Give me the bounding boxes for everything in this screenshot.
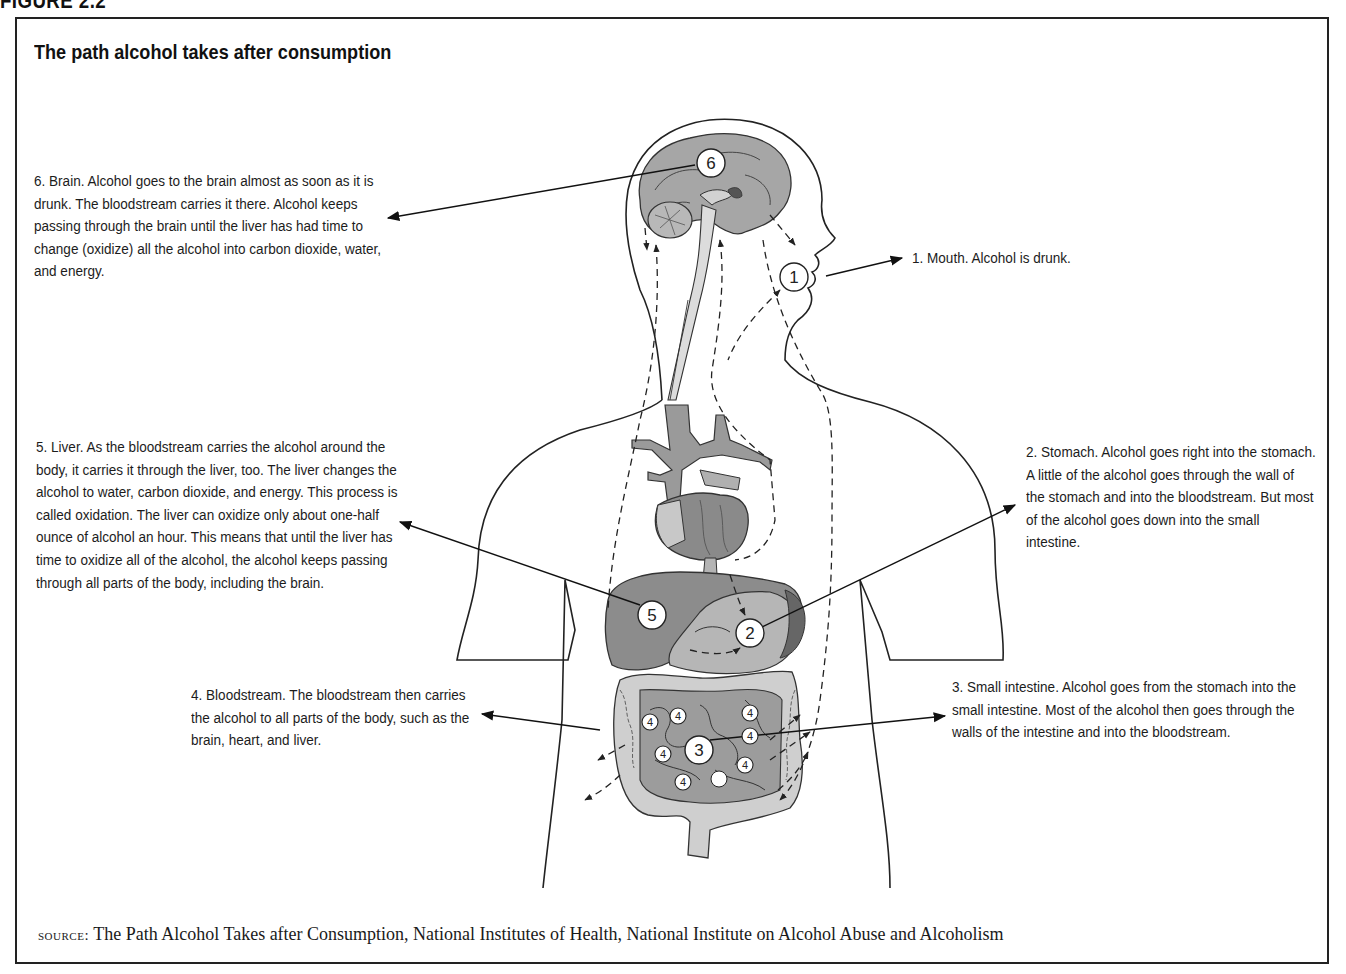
leader-mouth	[826, 258, 902, 276]
step-stomach-text: 2. Stomach. Alcohol goes right into the …	[1026, 441, 1316, 554]
svg-text:1: 1	[789, 268, 798, 287]
source-citation: source: The Path Alcohol Takes after Con…	[38, 924, 1004, 945]
step-liver-text: 5. Liver. As the bloodstream carries the…	[36, 436, 410, 594]
source-keyword: source:	[38, 927, 89, 943]
svg-text:4: 4	[647, 716, 653, 728]
svg-text:4: 4	[747, 730, 753, 742]
marker-1: 1	[780, 263, 808, 291]
svg-text:3: 3	[694, 741, 703, 760]
step-brain-text: 6. Brain. Alcohol goes to the brain almo…	[34, 170, 386, 283]
marker-2: 2	[736, 619, 764, 647]
svg-text:4: 4	[680, 776, 686, 788]
svg-text:4: 4	[675, 710, 681, 722]
svg-text:5: 5	[647, 606, 656, 625]
heart-illustration	[632, 405, 772, 593]
step-mouth-text: 1. Mouth. Alcohol is drunk.	[912, 247, 1194, 270]
marker-3: 3	[685, 736, 713, 764]
marker-6: 6	[697, 149, 725, 177]
step-small-intestine-text: 3. Small intestine. Alcohol goes from th…	[952, 676, 1313, 744]
svg-text:4: 4	[742, 759, 748, 771]
leader-stomach	[760, 505, 1015, 628]
leader-liver	[400, 522, 640, 605]
leader-bloodstream	[482, 714, 600, 730]
svg-text:4: 4	[747, 707, 753, 719]
svg-text:6: 6	[706, 154, 715, 173]
step-bloodstream-text: 4. Bloodstream. The bloodstream then car…	[191, 684, 481, 752]
source-text: The Path Alcohol Takes after Consumption…	[89, 924, 1003, 944]
svg-text:4: 4	[660, 748, 666, 760]
intestines-illustration	[614, 671, 803, 858]
svg-text:2: 2	[745, 624, 754, 643]
marker-5: 5	[638, 601, 666, 629]
liver-stomach-illustration	[605, 572, 805, 674]
